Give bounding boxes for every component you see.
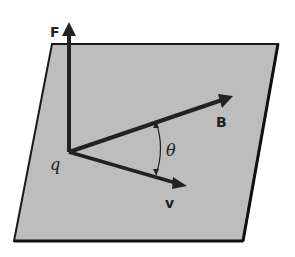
charge-label: q <box>50 155 60 174</box>
angle-label: θ <box>166 141 176 160</box>
field-label: B <box>216 114 227 130</box>
plane <box>14 44 278 241</box>
force-label: F <box>50 24 60 40</box>
force-diagram: F B v θ q <box>0 0 295 257</box>
velocity-label: v <box>165 195 174 211</box>
